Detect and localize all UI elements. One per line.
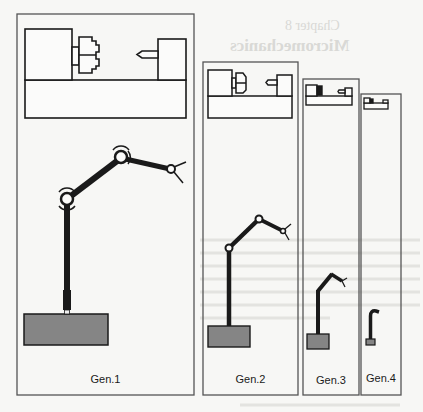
robot-arm-gen2-icon xyxy=(208,216,291,348)
label-gen3: Gen.3 xyxy=(303,374,359,386)
lathe-gen2-icon xyxy=(208,70,292,118)
lathe-gen4-icon xyxy=(364,98,388,109)
robot-arm-gen4-icon xyxy=(366,311,379,345)
figure-drawing xyxy=(0,0,423,412)
robot-base-gen1 xyxy=(24,314,108,345)
robot-base-gen2 xyxy=(208,326,250,347)
robot-arm-gen3-icon xyxy=(307,274,347,349)
lathe-gen3-icon xyxy=(306,85,352,105)
label-gen1: Gen.1 xyxy=(17,373,194,385)
label-gen4: Gen.4 xyxy=(361,372,401,384)
panel-gen4-frame xyxy=(361,94,401,395)
robot-base-gen4 xyxy=(366,339,375,345)
robot-arm-gen1-icon xyxy=(24,146,186,345)
robot-generations-figure: Chapter 8 Micromechanics xyxy=(0,0,423,412)
lathe-gen1-icon xyxy=(25,29,186,118)
robot-base-gen3 xyxy=(307,334,329,349)
label-gen2: Gen.2 xyxy=(203,373,298,385)
